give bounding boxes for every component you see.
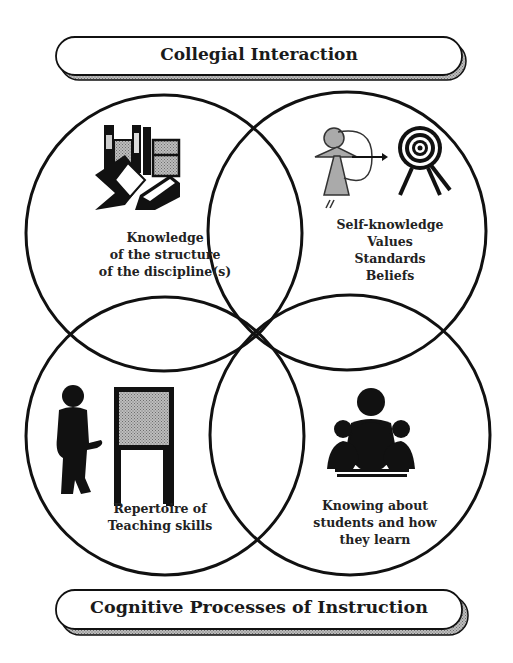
label-line: Values (300, 233, 480, 250)
label-top-right: Self-knowledge Values Standards Beliefs (300, 216, 480, 284)
label-line: Knowledge (60, 229, 270, 246)
label-bottom-right: Knowing about students and how they lear… (300, 497, 450, 548)
label-line: Standards (300, 250, 480, 267)
archer-and-target-icon (315, 126, 450, 208)
diagram-canvas (0, 0, 513, 663)
label-line: students and how (300, 514, 450, 531)
label-line: Beliefs (300, 267, 480, 284)
label-bottom-left: Repertoire of Teaching skills (80, 500, 240, 534)
banner-top-title: Collegial Interaction (56, 44, 462, 64)
label-line: of the structure (60, 246, 270, 263)
label-line: they learn (300, 531, 450, 548)
teacher-with-students-icon (327, 388, 415, 477)
label-line: Repertoire of (80, 500, 240, 517)
books-icon (95, 125, 180, 210)
label-line: Self-knowledge (300, 216, 480, 233)
label-line: of the discipline(s) (60, 263, 270, 280)
teacher-at-easel-icon (57, 385, 178, 506)
label-line: Knowing about (300, 497, 450, 514)
label-line: Teaching skills (80, 517, 240, 534)
label-top-left: Knowledge of the structure of the discip… (60, 229, 270, 280)
banner-bottom-title: Cognitive Processes of Instruction (56, 597, 462, 617)
